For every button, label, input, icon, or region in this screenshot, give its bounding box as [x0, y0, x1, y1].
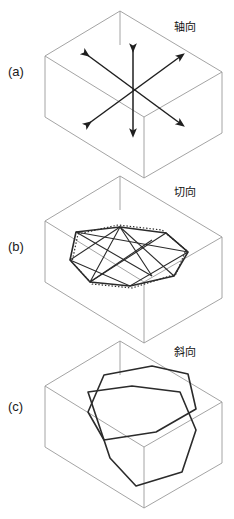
panel-c-oblique-plane-2: [88, 386, 196, 486]
panel-label-c: (c): [8, 399, 23, 414]
panel-label-a: (a): [8, 64, 24, 79]
direction-label-tangential: 切向: [174, 183, 196, 199]
direction-label-axial: 轴向: [174, 18, 196, 34]
figure-canvas: [0, 0, 234, 519]
panel-b-group: [45, 176, 222, 343]
direction-label-oblique: 斜向: [174, 343, 196, 359]
figure-container: (a) (b) (c) 轴向 切向 斜向: [0, 0, 234, 519]
panel-a-group: [45, 11, 222, 178]
panel-c-group: [45, 341, 222, 508]
panel-label-b: (b): [8, 239, 24, 254]
